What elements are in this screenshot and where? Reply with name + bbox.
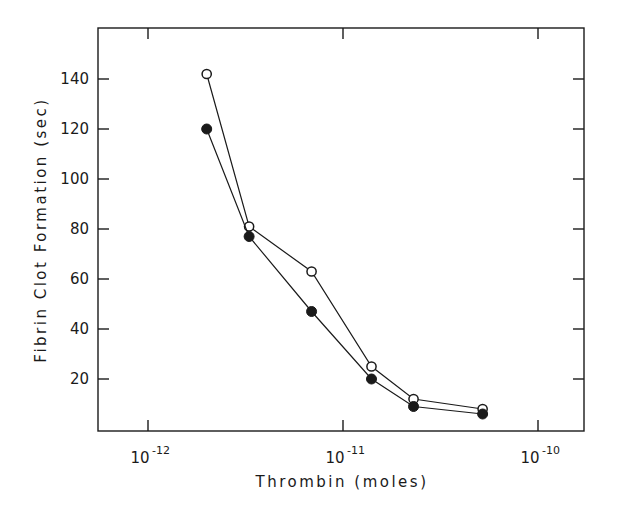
x-axis-ticks: 10-1210-1110-10 [130, 28, 560, 467]
y-axis-ticks: 20406080100120140 [60, 70, 584, 388]
open-circle-marker [307, 267, 316, 276]
filled-circle-marker [478, 409, 488, 419]
filled-circle-marker [366, 374, 376, 384]
y-tick-label: 80 [70, 220, 89, 238]
filled-circle-marker [307, 307, 317, 317]
filled-circle-marker [202, 124, 212, 134]
x-tick-label: 10 [325, 449, 344, 467]
x-tick-exponent: -12 [152, 444, 170, 457]
series-open-circles [202, 69, 487, 413]
plot-frame [98, 28, 584, 431]
x-tick-exponent: -10 [542, 444, 560, 457]
plot-border [98, 28, 584, 431]
y-tick-label: 40 [70, 320, 89, 338]
y-tick-label: 60 [70, 270, 89, 288]
x-tick-exponent: -11 [347, 444, 365, 457]
y-tick-label: 100 [60, 170, 89, 188]
x-tick-label: 10 [130, 449, 149, 467]
y-tick-label: 120 [60, 120, 89, 138]
y-axis-title: Fibrin Clot Formation (sec) [32, 97, 50, 362]
data-series [202, 69, 488, 419]
x-tick-label: 10 [520, 449, 539, 467]
series-line [207, 129, 483, 414]
filled-circle-marker [409, 402, 419, 412]
open-circle-marker [202, 69, 211, 78]
open-circle-marker [367, 362, 376, 371]
y-tick-label: 20 [70, 370, 89, 388]
chart: 20406080100120140 10-1210-1110-10 Fibrin… [0, 0, 619, 525]
series-filled-circles [202, 124, 488, 419]
x-axis-title: Thrombin (moles) [255, 473, 429, 491]
y-tick-label: 140 [60, 70, 89, 88]
filled-circle-marker [244, 232, 254, 242]
